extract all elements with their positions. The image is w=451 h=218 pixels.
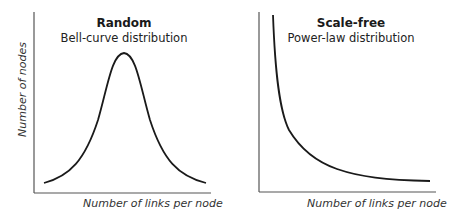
x-axis-label: Number of links per node: [83, 197, 223, 210]
chart-subtitle: Bell-curve distribution: [60, 31, 188, 45]
chart-title: Scale-free: [315, 16, 387, 30]
x-axis-label: Number of links per node: [307, 197, 447, 210]
bell-curve: [44, 53, 206, 183]
chart-title: Random: [94, 16, 154, 30]
scale-free-network-chart: Scale-free Power-law distribution Number…: [225, 0, 451, 218]
random-network-chart: Random Bell-curve distribution Number of…: [0, 0, 225, 218]
y-axis-label: Number of nodes: [16, 42, 29, 137]
chart-subtitle: Power-law distribution: [286, 31, 416, 45]
